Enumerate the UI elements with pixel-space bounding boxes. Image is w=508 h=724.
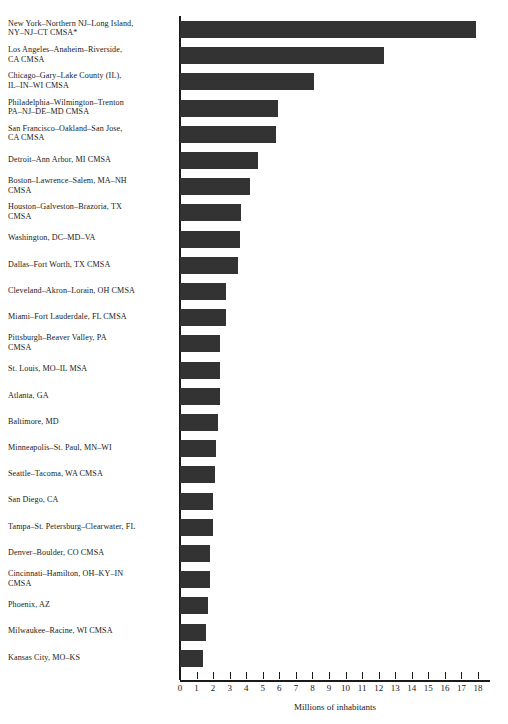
bar xyxy=(180,335,220,352)
bar xyxy=(180,466,215,483)
x-tick xyxy=(279,672,280,679)
bar xyxy=(180,571,210,588)
bar xyxy=(180,178,250,195)
bar xyxy=(180,257,238,274)
x-tick xyxy=(478,672,479,679)
population-bar-chart: New York–Northern NJ–Long Island, NY–NJ–… xyxy=(0,0,508,724)
x-tick xyxy=(379,672,380,679)
x-tick xyxy=(412,672,413,679)
bar xyxy=(180,152,258,169)
bar xyxy=(180,493,213,510)
bar xyxy=(180,231,240,248)
x-tick xyxy=(296,672,297,679)
x-tick xyxy=(445,672,446,679)
bar xyxy=(180,283,226,300)
bar xyxy=(180,309,226,326)
bar xyxy=(180,545,210,562)
x-tick xyxy=(197,672,198,679)
bar xyxy=(180,597,208,614)
x-tick xyxy=(246,672,247,679)
x-tick xyxy=(230,672,231,679)
bar xyxy=(180,519,213,536)
x-tick xyxy=(312,672,313,679)
x-tick xyxy=(362,672,363,679)
bar xyxy=(180,388,220,405)
x-tick xyxy=(395,672,396,679)
bar xyxy=(180,126,276,143)
x-tick xyxy=(346,672,347,679)
bar xyxy=(180,414,218,431)
bar xyxy=(180,362,220,379)
x-axis-title: Millions of inhabitants xyxy=(180,702,490,713)
x-tick xyxy=(461,672,462,679)
bar xyxy=(180,440,216,457)
x-tick xyxy=(263,672,264,679)
bar xyxy=(180,204,241,221)
x-tick xyxy=(428,672,429,679)
bar xyxy=(180,650,203,667)
x-tick xyxy=(329,672,330,679)
x-tick-label: 18 xyxy=(468,683,488,694)
bar xyxy=(180,624,206,641)
bar xyxy=(180,100,278,117)
plot-area xyxy=(0,0,508,668)
x-axis-line xyxy=(180,680,490,682)
x-tick xyxy=(213,672,214,679)
x-axis: 0123456789101112131415161718 xyxy=(0,0,508,60)
bar xyxy=(180,73,314,90)
